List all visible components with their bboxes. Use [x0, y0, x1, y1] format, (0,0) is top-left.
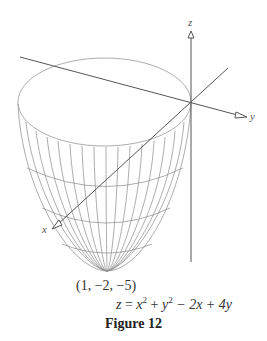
x-axis	[57, 68, 228, 225]
z-axis-label: z	[188, 16, 192, 28]
y-axis-label: y	[250, 110, 255, 122]
equation: z = x2 + y2 − 2x + 4y	[116, 295, 232, 313]
axes	[20, 31, 247, 262]
y-arrow-icon	[235, 112, 247, 118]
paraboloid-surface	[18, 58, 191, 271]
figure-caption: Figure 12	[0, 316, 267, 332]
vertex-label: (1, −2, −5)	[76, 278, 136, 294]
x-axis-label: x	[42, 223, 47, 235]
z-arrow-icon	[188, 31, 194, 38]
